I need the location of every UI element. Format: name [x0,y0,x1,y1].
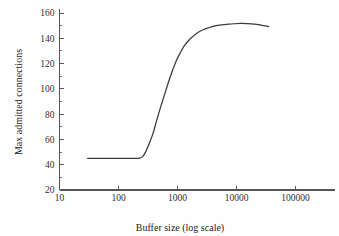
y-axis-title: Max admitted connections [13,49,24,155]
y-tick-label-80: 80 [45,110,55,120]
line-chart-canvas: 20406080100120140160 1010010001000010000… [0,0,339,236]
y-tick-label-40: 40 [45,160,55,170]
y-tick-label-160: 160 [40,8,55,18]
x-axis-tick-labels: 10100100010000100000 [55,193,310,203]
x-axis-title: Buffer size (log scale) [136,222,224,234]
chart-figure: 20406080100120140160 1010010001000010000… [0,0,339,236]
x-tick-label-10000: 10000 [225,193,249,203]
x-tick-label-1000: 1000 [168,193,187,203]
y-tick-label-140: 140 [40,34,55,44]
x-tick-label-10: 10 [55,193,65,203]
y-tick-label-20: 20 [45,185,55,195]
x-tick-label-100: 100 [111,193,126,203]
data-series-line [88,23,269,158]
y-tick-label-60: 60 [45,135,55,145]
y-tick-label-120: 120 [40,59,55,69]
y-tick-label-100: 100 [40,84,55,94]
x-axis-major-ticks [60,186,296,191]
y-axis-tick-labels: 20406080100120140160 [40,8,55,195]
x-tick-label-100000: 100000 [281,193,310,203]
